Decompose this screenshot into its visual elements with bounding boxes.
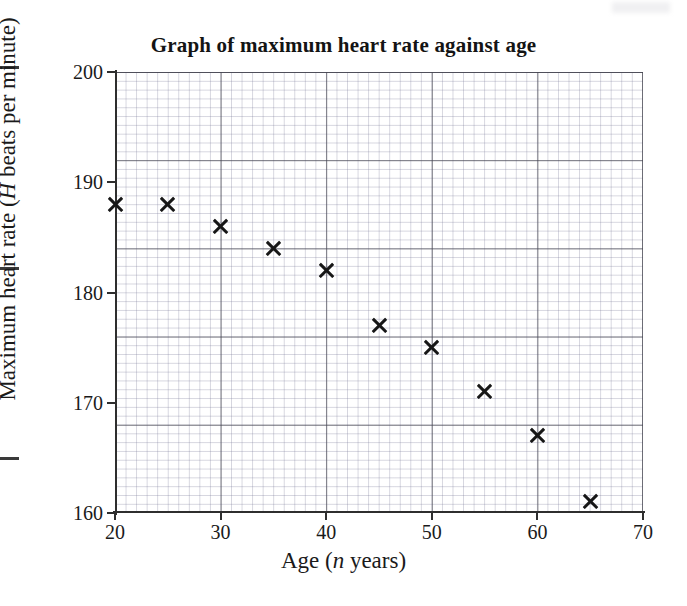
x-tick-mark bbox=[536, 511, 538, 520]
x-axis-line bbox=[113, 511, 645, 513]
variable-symbol: H bbox=[0, 183, 20, 200]
x-tick-label: 60 bbox=[527, 521, 547, 544]
y-axis-title: Maximum heart rate (H beats per minute) bbox=[0, 0, 21, 424]
data-point-marker bbox=[159, 196, 176, 213]
data-point-marker bbox=[371, 317, 388, 334]
plot-area: 160170180190200 203040506070 bbox=[115, 72, 643, 513]
x-tick-mark bbox=[220, 511, 222, 520]
x-axis-title: Age (n years) bbox=[0, 548, 687, 574]
y-tick-mark bbox=[107, 71, 116, 73]
scan-smudge bbox=[612, 2, 670, 13]
y-tick-label: 170 bbox=[73, 391, 103, 414]
x-tick-label: 70 bbox=[633, 521, 653, 544]
data-point-marker bbox=[476, 383, 493, 400]
data-point-marker bbox=[582, 493, 599, 510]
x-tick-label: 30 bbox=[211, 521, 231, 544]
x-tick-mark bbox=[642, 511, 644, 520]
chart-title: Graph of maximum heart rate against age bbox=[0, 33, 687, 58]
y-tick-mark bbox=[107, 181, 116, 183]
data-point-marker bbox=[529, 427, 546, 444]
variable-symbol: n bbox=[333, 548, 345, 573]
major-gridlines bbox=[115, 72, 643, 513]
x-tick-mark bbox=[114, 511, 116, 520]
x-tick-label: 50 bbox=[422, 521, 442, 544]
x-tick-mark bbox=[431, 511, 433, 520]
y-tick-label: 160 bbox=[73, 502, 103, 525]
x-tick-label: 20 bbox=[105, 521, 125, 544]
plot-frame-right bbox=[642, 72, 643, 513]
y-tick-label: 190 bbox=[73, 171, 103, 194]
y-tick-label: 200 bbox=[73, 61, 103, 84]
data-point-marker bbox=[107, 196, 124, 213]
data-point-marker bbox=[423, 339, 440, 356]
y-tick-label: 180 bbox=[73, 281, 103, 304]
data-point-marker bbox=[212, 218, 229, 235]
x-tick-mark bbox=[325, 511, 327, 520]
y-tick-mark bbox=[107, 402, 116, 404]
y-tick-mark bbox=[107, 292, 116, 294]
x-tick-label: 40 bbox=[316, 521, 336, 544]
page-margin-mark bbox=[0, 457, 19, 460]
data-point-marker bbox=[265, 240, 282, 257]
plot-frame-top bbox=[115, 72, 643, 73]
data-point-marker bbox=[318, 262, 335, 279]
